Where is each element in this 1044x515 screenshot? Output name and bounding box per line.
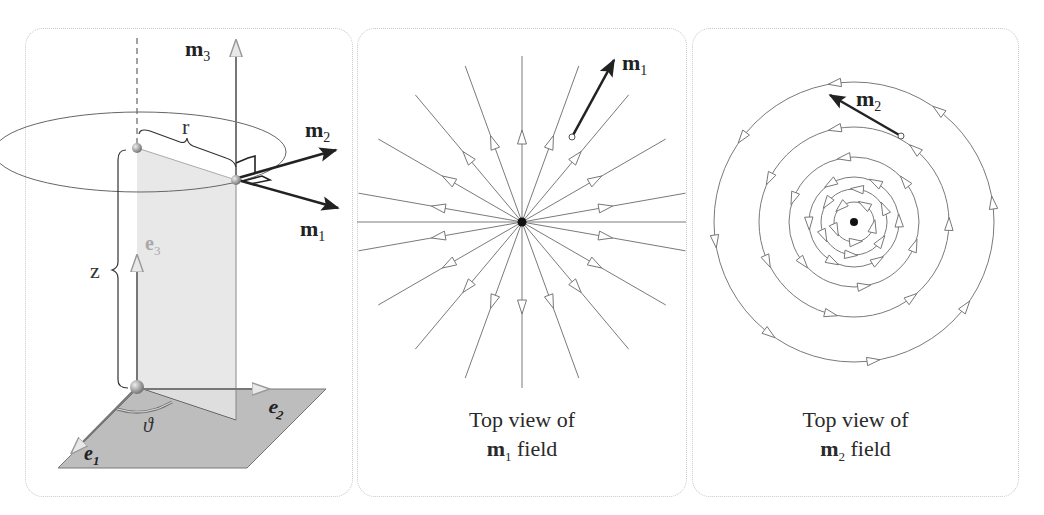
m2-field-vector-label: m2 xyxy=(856,86,881,114)
caption-line-2: m2 field xyxy=(692,434,1019,471)
circular-center-dot xyxy=(850,218,858,226)
caption-line-1: Top view of xyxy=(692,405,1019,434)
m2-field-caption: Top view of m2 field xyxy=(692,405,1019,471)
